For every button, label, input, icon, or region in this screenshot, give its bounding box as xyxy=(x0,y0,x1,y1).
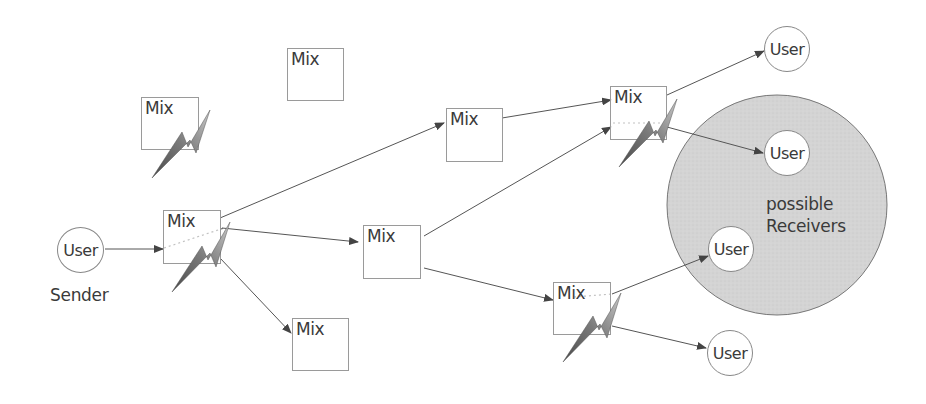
lightning-icon xyxy=(619,99,677,167)
user-label: User xyxy=(714,240,748,259)
sender-user: User xyxy=(57,227,104,273)
user-label: User xyxy=(770,144,804,163)
possible-receivers-line-2: Receivers xyxy=(766,215,846,237)
user-label: User xyxy=(770,40,804,59)
receiver-user-bottom: User xyxy=(707,330,753,376)
receiver-user-top: User xyxy=(764,26,810,72)
possible-receivers-line-1: possible xyxy=(766,193,846,215)
sender-caption: Sender xyxy=(50,284,108,306)
lightning-icon xyxy=(152,110,210,178)
user-label: User xyxy=(63,241,97,260)
lightning-icon xyxy=(172,222,230,292)
lightning-icon xyxy=(563,293,621,362)
receiver-user-lower: User xyxy=(708,226,754,272)
receiver-user-upper: User xyxy=(764,130,810,176)
possible-receivers-label: possible Receivers xyxy=(766,193,846,237)
user-label: User xyxy=(713,344,747,363)
